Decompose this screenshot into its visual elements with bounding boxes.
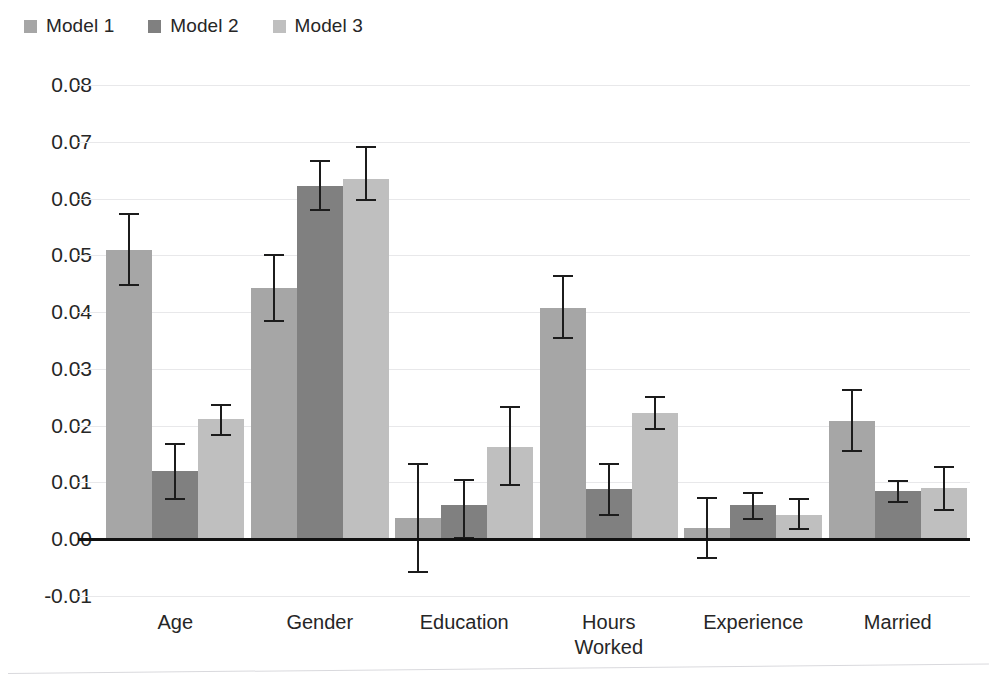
plot-area: AgeGenderEducationHours WorkedExperience… bbox=[103, 85, 970, 596]
bar-group bbox=[106, 85, 244, 596]
x-axis-tick-label: Age bbox=[103, 610, 248, 635]
bar[interactable] bbox=[106, 250, 152, 540]
legend-item-2[interactable]: Model 2 bbox=[148, 15, 238, 37]
error-bar-cap-lower bbox=[888, 501, 908, 503]
error-bar-cap-upper bbox=[165, 443, 185, 445]
error-bar-cap-upper bbox=[454, 479, 474, 481]
error-bar-cap-lower bbox=[697, 557, 717, 559]
error-bar-stem bbox=[417, 464, 419, 571]
bar[interactable] bbox=[343, 179, 389, 540]
legend-swatch-icon bbox=[148, 20, 161, 33]
legend-swatch-icon bbox=[24, 20, 37, 33]
y-axis: 0.080.070.060.050.040.030.020.010.00-0.0… bbox=[0, 85, 92, 596]
error-bar-stem bbox=[174, 444, 176, 499]
bar-group bbox=[829, 85, 967, 596]
error-bar-stem bbox=[608, 464, 610, 516]
error-bar-cap-upper bbox=[743, 492, 763, 494]
x-axis-tick-label: Education bbox=[392, 610, 537, 635]
legend-label: Model 2 bbox=[170, 15, 238, 37]
error-bar-stem bbox=[752, 493, 754, 519]
error-bar-stem bbox=[654, 397, 656, 429]
y-axis-tick-rule bbox=[78, 199, 103, 200]
legend-item-1[interactable]: Model 1 bbox=[24, 15, 114, 37]
error-bar-cap-upper bbox=[500, 406, 520, 408]
error-bar-cap-upper bbox=[211, 404, 231, 406]
error-bar-cap-lower bbox=[934, 509, 954, 511]
error-bar-cap-upper bbox=[264, 254, 284, 256]
bar-group bbox=[251, 85, 389, 596]
y-axis-tick-rule bbox=[78, 538, 103, 541]
gridline bbox=[103, 596, 970, 597]
error-bar-cap-upper bbox=[310, 160, 330, 162]
error-bar-cap-upper bbox=[789, 498, 809, 500]
legend-label: Model 1 bbox=[46, 15, 114, 37]
error-bar-cap-upper bbox=[553, 275, 573, 277]
error-bar-stem bbox=[562, 276, 564, 337]
error-bar-cap-upper bbox=[356, 146, 376, 148]
error-bar-cap-lower bbox=[599, 514, 619, 516]
error-bar-stem bbox=[319, 161, 321, 210]
error-bar-cap-upper bbox=[842, 389, 862, 391]
y-axis-tick-rule bbox=[78, 482, 103, 483]
error-bar-stem bbox=[897, 481, 899, 502]
error-bar-cap-lower bbox=[743, 518, 763, 520]
error-bar-cap-upper bbox=[934, 466, 954, 468]
error-bar-cap-lower bbox=[119, 284, 139, 286]
legend-swatch-icon bbox=[273, 20, 286, 33]
chart-area: 0.080.070.060.050.040.030.020.010.00-0.0… bbox=[0, 52, 997, 691]
error-bar-cap-lower bbox=[553, 337, 573, 339]
error-bar-cap-lower bbox=[310, 209, 330, 211]
zero-axis-line bbox=[103, 538, 970, 541]
error-bar-stem bbox=[851, 390, 853, 451]
error-bar-stem bbox=[365, 147, 367, 200]
bar-group bbox=[684, 85, 822, 596]
error-bar-cap-lower bbox=[211, 434, 231, 436]
error-bar-stem bbox=[273, 255, 275, 321]
bar-group bbox=[540, 85, 678, 596]
error-bar-cap-lower bbox=[842, 450, 862, 452]
error-bar-cap-upper bbox=[888, 480, 908, 482]
legend-item-3[interactable]: Model 3 bbox=[273, 15, 363, 37]
y-axis-tick-rule bbox=[78, 312, 103, 313]
error-bar-cap-upper bbox=[599, 463, 619, 465]
error-bar-cap-lower bbox=[165, 498, 185, 500]
bar[interactable] bbox=[198, 419, 244, 539]
x-axis-tick-label: Married bbox=[826, 610, 971, 635]
legend-label: Model 3 bbox=[295, 15, 363, 37]
error-bar-stem bbox=[220, 405, 222, 435]
error-bar-cap-lower bbox=[408, 571, 428, 573]
error-bar-stem bbox=[943, 467, 945, 510]
bar[interactable] bbox=[540, 308, 586, 540]
y-axis-tick-rule bbox=[78, 255, 103, 256]
error-bar-stem bbox=[706, 498, 708, 558]
y-axis-tick-rule bbox=[78, 142, 103, 143]
bar-group bbox=[395, 85, 533, 596]
error-bar-cap-lower bbox=[500, 484, 520, 486]
error-bar-stem bbox=[463, 480, 465, 538]
x-axis-tick-label: Gender bbox=[248, 610, 393, 635]
bar[interactable] bbox=[251, 288, 297, 539]
chart-legend: Model 1Model 2Model 3 bbox=[0, 0, 997, 52]
error-bar-stem bbox=[798, 499, 800, 529]
error-bar-cap-upper bbox=[697, 497, 717, 499]
error-bar-stem bbox=[509, 407, 511, 484]
x-axis-tick-label: Hours Worked bbox=[537, 610, 682, 661]
bar[interactable] bbox=[297, 186, 343, 539]
error-bar-cap-lower bbox=[356, 199, 376, 201]
error-bar-cap-upper bbox=[119, 213, 139, 215]
y-axis-tick-rule bbox=[78, 85, 103, 86]
x-axis-tick-label: Experience bbox=[681, 610, 826, 635]
error-bar-cap-lower bbox=[264, 320, 284, 322]
y-axis-tick-rule bbox=[78, 596, 103, 597]
y-axis-tick-rule bbox=[78, 426, 103, 427]
error-bar-cap-lower bbox=[789, 528, 809, 530]
error-bar-cap-upper bbox=[645, 396, 665, 398]
error-bar-cap-lower bbox=[645, 428, 665, 430]
error-bar-cap-upper bbox=[408, 463, 428, 465]
y-axis-tick-rule bbox=[78, 369, 103, 370]
error-bar-stem bbox=[128, 214, 130, 285]
bar[interactable] bbox=[632, 413, 678, 539]
